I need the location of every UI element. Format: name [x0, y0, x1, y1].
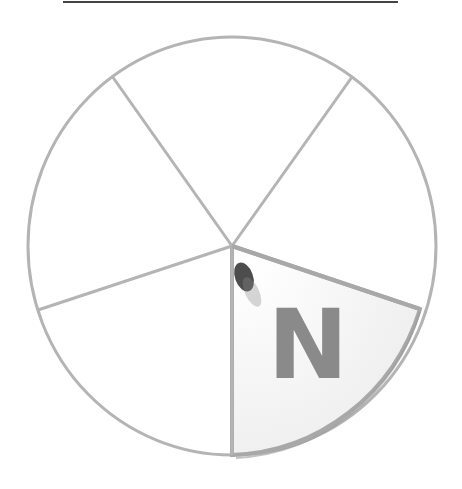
spinner-wheel[interactable]: N	[0, 0, 462, 489]
sector-letter: N	[268, 289, 348, 401]
